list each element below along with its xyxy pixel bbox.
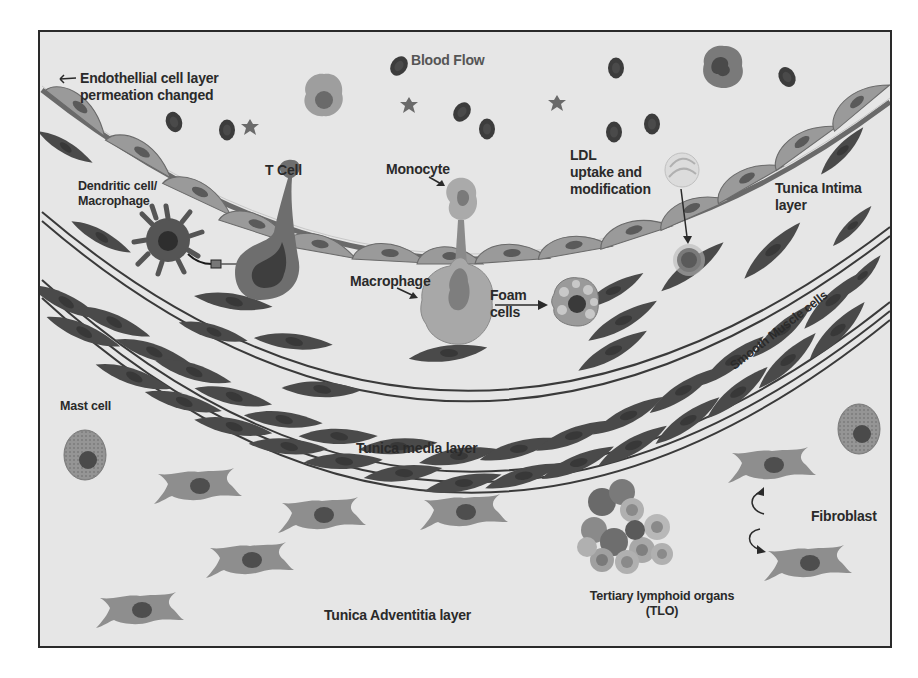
ldl-particle <box>665 153 699 187</box>
dendritic-cell-label: Dendritic cell/ Macrophage <box>78 179 157 209</box>
endothelial-label-line2: permeation changed <box>80 87 219 104</box>
foam-cell <box>552 278 599 326</box>
tlo-label-line1: Tertiary lymphoid organs <box>587 589 737 604</box>
circulating-monocyte <box>304 74 342 116</box>
t-cell-label: T Cell <box>265 162 302 179</box>
tunica-intima-line2: layer <box>775 197 862 214</box>
foam-label-line1: Foam <box>490 287 527 304</box>
ldl-label: LDL uptake and modification <box>570 147 651 198</box>
tlo-cluster <box>577 479 673 574</box>
foam-cells-label: Foam cells <box>490 287 527 321</box>
ldl-label-line1: LDL <box>570 147 651 164</box>
ldl-label-line2: uptake and <box>570 164 651 181</box>
tunica-media-label: Tunica media layer <box>356 440 477 457</box>
foam-label-line2: cells <box>490 304 527 321</box>
macrophage-cell <box>421 258 493 344</box>
oxidized-ldl <box>673 244 705 276</box>
diagram-frame: Blood Flow Endothellial cell layer perme… <box>38 30 892 648</box>
tunica-intima-label: Tunica Intima layer <box>775 180 862 214</box>
dendritic-label-line2: Macrophage <box>78 194 157 209</box>
mast-cell-label: Mast cell <box>60 399 111 414</box>
tunica-intima-line1: Tunica Intima <box>775 180 862 197</box>
monocyte-label: Monocyte <box>386 161 450 178</box>
tlo-label: Tertiary lymphoid organs (TLO) <box>587 589 737 619</box>
circulating-neutrophil <box>703 46 743 88</box>
macrophage-label: Macrophage <box>350 273 430 290</box>
tlo-label-line2: (TLO) <box>587 604 737 619</box>
endothelial-label: Endothellial cell layer permeation chang… <box>80 70 219 104</box>
endothelial-label-line1: Endothellial cell layer <box>80 70 219 87</box>
blood-flow-label: Blood Flow <box>411 52 484 69</box>
mast-cell-left <box>64 430 106 480</box>
fibroblast-label: Fibroblast <box>811 508 877 525</box>
ldl-label-line3: modification <box>570 181 651 198</box>
mast-cell-right <box>838 404 880 454</box>
dendritic-cell <box>134 206 202 274</box>
dendritic-label-line1: Dendritic cell/ <box>78 179 157 194</box>
tunica-adventitia-label: Tunica Adventitia layer <box>324 607 471 624</box>
